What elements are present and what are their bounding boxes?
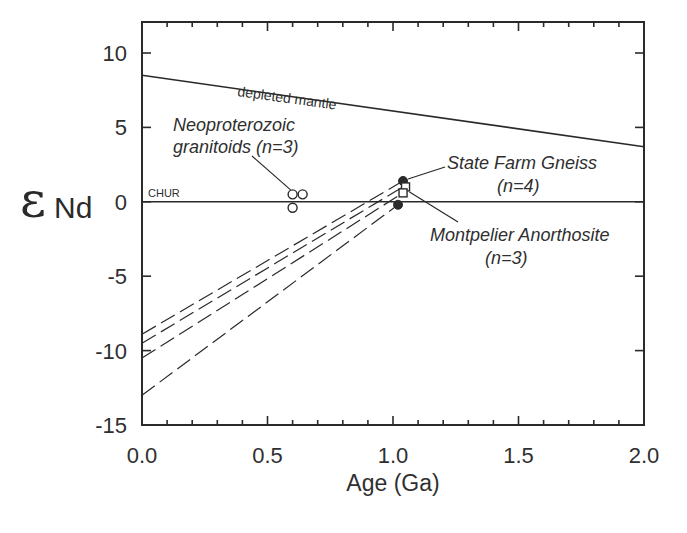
- cropped-caption: [0, 512, 687, 533]
- x-tick-label: 1.0: [378, 443, 409, 468]
- x-tick-label: 0.5: [252, 443, 283, 468]
- evolution-line-4-line: [142, 205, 398, 395]
- y-tick-label: 0: [115, 190, 127, 215]
- plot-frame: [142, 22, 644, 425]
- axis-ticks: [142, 22, 644, 425]
- state-farm-gneiss-label-line1: State Farm Gneiss: [447, 153, 597, 173]
- evolution-line-1-line: [142, 181, 403, 334]
- state-farm-gneiss-leader: [408, 167, 445, 179]
- filled-circle-marker: [394, 200, 403, 209]
- neoproterozoic-leader: [252, 156, 291, 190]
- montpelier-anorthosite-label-line1: Montpelier Anorthosite: [430, 225, 609, 245]
- y-tick-label: 5: [115, 115, 127, 140]
- y-tick-label: -15: [95, 413, 127, 438]
- chart: 0.00.51.01.52.01050-5-10-15 ε Nd Age (Ga…: [0, 0, 687, 533]
- plot-border: [142, 22, 644, 425]
- y-axis-title-epsilon: ε: [20, 171, 46, 229]
- open-circle-marker: [288, 203, 297, 212]
- open-square-marker: [399, 189, 407, 197]
- x-tick-label: 0.0: [127, 443, 158, 468]
- y-tick-label: -5: [107, 264, 127, 289]
- open-circle-marker: [288, 190, 297, 199]
- x-tick-label: 2.0: [629, 443, 660, 468]
- y-tick-label: -10: [95, 339, 127, 364]
- y-tick-label: 10: [103, 41, 127, 66]
- open-circle-marker: [298, 190, 307, 199]
- montpelier-anorthosite-label-line2: (n=3): [485, 248, 528, 268]
- evolution-line-2-line: [142, 187, 403, 343]
- x-axis-title: Age (Ga): [346, 470, 439, 496]
- depleted-mantle-label: depleted mantle: [237, 83, 338, 112]
- state-farm-gneiss-label-line2: (n=4): [497, 176, 540, 196]
- x-tick-label: 1.5: [503, 443, 534, 468]
- neoproterozoic-label-line2: granitoids (n=3): [173, 137, 299, 157]
- axis-tick-labels: 0.00.51.01.52.01050-5-10-15: [95, 41, 659, 468]
- y-axis-title-subscript: Nd: [54, 191, 92, 224]
- annotation-leaders: [252, 156, 458, 222]
- chur-label: CHUR: [148, 187, 180, 199]
- evolution-line-3-line: [142, 193, 403, 358]
- neoproterozoic-label-line1: Neoproterozoic: [173, 115, 295, 135]
- montpelier-anorthosite-leader: [410, 192, 458, 222]
